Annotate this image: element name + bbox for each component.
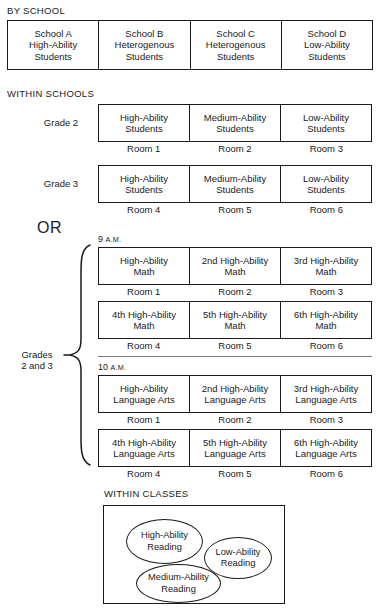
grade-2-cell-high: High-Ability Students <box>99 105 190 141</box>
grade-2-cell-medium: Medium-Ability Students <box>190 105 281 141</box>
math-row-2-table: 4th High-Ability Math 5th High-Ability M… <box>98 301 372 339</box>
cell-line: Students <box>125 184 163 196</box>
cell-line: Math <box>224 266 245 278</box>
by-school-caption: BY SCHOOL <box>7 5 65 16</box>
math-cell-2: 2nd High-Ability Math <box>190 248 281 284</box>
grades-label-line-2: 2 and 3 <box>21 360 53 371</box>
cell-line: 3rd High-Ability <box>294 383 358 395</box>
time-suffix: A.M. <box>106 235 122 244</box>
cell-line: Medium-Ability <box>204 112 266 124</box>
cell-line: 4th High-Ability <box>112 309 176 321</box>
cell-line: 6th High-Ability <box>294 437 358 449</box>
cell-line: Students <box>217 51 255 63</box>
cell-line: School C <box>216 28 255 40</box>
cell-line: Heterogenous <box>206 39 266 51</box>
room-label: Room 3 <box>281 286 372 298</box>
room-label: Room 4 <box>98 468 189 480</box>
cell-line: High-Ability <box>120 112 168 124</box>
la-row-1-table: High-Ability Language Arts 2nd High-Abil… <box>98 375 372 413</box>
la-cell-1: High-Ability Language Arts <box>99 376 190 412</box>
time-number: 9 <box>98 234 103 244</box>
time-label-10am: 10 A.M. <box>98 362 126 372</box>
la-row-1-room-labels: Room 1 Room 2 Room 3 <box>98 414 372 426</box>
within-classes-box: High-Ability Reading Low-Ability Reading… <box>103 505 285 604</box>
grade-3-cell-medium: Medium-Ability Students <box>190 166 281 202</box>
room-label: Room 2 <box>189 286 280 298</box>
room-label: Room 4 <box>98 340 189 352</box>
cell-line: Reading <box>147 542 182 554</box>
cell-line: Language Arts <box>113 448 174 460</box>
by-school-cell-a: School A High-Ability Students <box>8 21 99 69</box>
cell-line: Students <box>307 184 345 196</box>
cell-line: High-Ability <box>141 530 188 542</box>
grades-label-line-1: Grades <box>21 349 52 360</box>
cell-line: 6th High-Ability <box>294 309 358 321</box>
cell-line: 5th High-Ability <box>203 309 267 321</box>
cell-line: 3rd High-Ability <box>294 255 358 267</box>
room-label: Room 2 <box>189 143 280 155</box>
cell-line: School B <box>125 28 163 40</box>
math-row-2-room-labels: Room 4 Room 5 Room 6 <box>98 340 372 352</box>
time-suffix: A.M. <box>111 363 127 372</box>
time-number: 10 <box>98 362 108 372</box>
cell-line: Language Arts <box>204 448 265 460</box>
by-school-cell-b: School B Heterogenous Students <box>99 21 190 69</box>
cell-line: 5th High-Ability <box>203 437 267 449</box>
cell-line: High-Ability <box>120 383 168 395</box>
cell-line: Students <box>216 123 254 135</box>
la-cell-3: 3rd High-Ability Language Arts <box>281 376 371 412</box>
grades-brace <box>62 243 92 467</box>
math-cell-1: High-Ability Math <box>99 248 190 284</box>
grade-3-cell-high: High-Ability Students <box>99 166 190 202</box>
room-label: Room 5 <box>189 340 280 352</box>
la-row-2-room-labels: Room 4 Room 5 Room 6 <box>98 468 372 480</box>
la-cell-6: 6th High-Ability Language Arts <box>281 430 371 466</box>
math-cell-6: 6th High-Ability Math <box>281 302 371 338</box>
cell-line: Medium-Ability <box>204 173 266 185</box>
reading-group-high: High-Ability Reading <box>126 519 203 564</box>
math-cell-5: 5th High-Ability Math <box>190 302 281 338</box>
time-label-9am: 9 A.M. <box>98 234 121 244</box>
room-label: Room 6 <box>281 340 372 352</box>
cell-line: Reading <box>221 558 256 570</box>
cell-line: Students <box>125 123 163 135</box>
cell-line: High-Ability <box>120 255 168 267</box>
within-schools-caption: WITHIN SCHOOLS <box>7 88 94 99</box>
by-school-cell-d: School D Low-Ability Students <box>282 21 372 69</box>
room-label: Room 5 <box>189 468 280 480</box>
cell-line: Students <box>307 123 345 135</box>
cell-line: 4th High-Ability <box>112 437 176 449</box>
cell-line: Math <box>315 266 336 278</box>
within-classes-caption: WITHIN CLASSES <box>104 488 188 499</box>
cell-line: Low-Ability <box>304 39 350 51</box>
grade-3-room-labels: Room 4 Room 5 Room 6 <box>98 204 372 216</box>
cell-line: 2nd High-Ability <box>202 383 269 395</box>
cell-line: Math <box>133 266 154 278</box>
room-label: Room 1 <box>98 286 189 298</box>
grade-3-label: Grade 3 <box>32 178 90 189</box>
grade-2-label-text: Grade 2 <box>44 117 78 128</box>
by-school-table: School A High-Ability Students School B … <box>7 20 373 70</box>
cell-line: 2nd High-Ability <box>202 255 269 267</box>
cell-line: Math <box>133 320 154 332</box>
cell-line: Students <box>34 51 72 63</box>
cell-line: School A <box>34 28 72 40</box>
grade-2-label: Grade 2 <box>32 117 90 128</box>
cell-line: Language Arts <box>295 394 356 406</box>
cell-line: Language Arts <box>113 394 174 406</box>
cell-line: Students <box>216 184 254 196</box>
room-label: Room 3 <box>281 143 372 155</box>
time-block-divider <box>98 356 372 357</box>
room-label: Room 1 <box>98 143 189 155</box>
room-label: Room 1 <box>98 414 189 426</box>
cell-line: Medium-Ability <box>148 572 209 584</box>
cell-line: High-Ability <box>120 173 168 185</box>
room-label: Room 6 <box>281 204 372 216</box>
room-label: Room 5 <box>189 204 280 216</box>
la-cell-5: 5th High-Ability Language Arts <box>190 430 281 466</box>
reading-group-medium: Medium-Ability Reading <box>136 564 221 603</box>
room-label: Room 4 <box>98 204 189 216</box>
la-cell-4: 4th High-Ability Language Arts <box>99 430 190 466</box>
math-cell-4: 4th High-Ability Math <box>99 302 190 338</box>
room-label: Room 2 <box>189 414 280 426</box>
